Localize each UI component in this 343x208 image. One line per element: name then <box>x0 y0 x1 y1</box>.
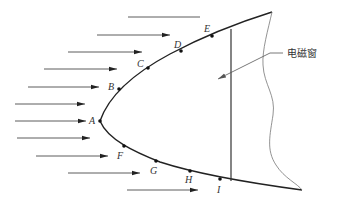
radome-diagram: 电磁窗 ABCDEFGHI <box>0 0 343 208</box>
point-marker-e <box>210 34 214 38</box>
break-line <box>263 12 302 190</box>
curve-points: ABCDEFGHI <box>88 23 222 195</box>
point-marker-f <box>122 144 126 148</box>
point-marker-c <box>146 66 150 70</box>
point-label-a: A <box>88 115 96 126</box>
point-marker-b <box>117 87 121 91</box>
point-label-d: D <box>173 39 182 50</box>
point-label-e: E <box>203 23 210 34</box>
point-label-h: H <box>184 174 193 185</box>
point-label-c: C <box>137 58 144 69</box>
point-marker-h <box>188 169 192 173</box>
point-label-b: B <box>108 81 114 92</box>
incident-ray-arrows <box>15 17 200 190</box>
point-marker-g <box>154 159 158 163</box>
point-label-i: I <box>216 184 221 195</box>
window-label: 电磁窗 <box>287 47 317 59</box>
point-label-f: F <box>116 150 124 161</box>
window-leader-line <box>218 53 283 79</box>
diagram-canvas: 电磁窗 ABCDEFGHI <box>0 0 343 208</box>
point-label-g: G <box>150 165 157 176</box>
radome-profile-curve <box>100 12 302 190</box>
point-marker-i <box>218 177 222 181</box>
point-marker-a <box>98 119 102 123</box>
